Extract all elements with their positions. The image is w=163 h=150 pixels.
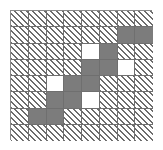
- grid-cell-hatch: [29, 60, 47, 76]
- grid-cell-hatch: [11, 125, 29, 141]
- grid-cell-gray: [47, 109, 65, 125]
- grid-cell-white: [82, 92, 100, 108]
- grid-cell-hatch: [118, 109, 136, 125]
- grid-cell-hatch: [64, 44, 82, 60]
- figure-container: [0, 0, 163, 150]
- grid-cell-hatch: [118, 11, 136, 27]
- grid: [10, 10, 152, 140]
- grid-cell-hatch: [47, 44, 65, 60]
- grid-cell-hatch: [29, 92, 47, 108]
- grid-cell-gray: [82, 60, 100, 76]
- grid-cell-hatch: [135, 109, 153, 125]
- grid-cell-hatch: [100, 125, 118, 141]
- grid-cell-hatch: [100, 11, 118, 27]
- grid-cell-hatch: [11, 76, 29, 92]
- grid-cell-hatch: [11, 92, 29, 108]
- grid-cell-hatch: [11, 60, 29, 76]
- grid-cell-hatch: [100, 109, 118, 125]
- grid-cell-hatch: [64, 11, 82, 27]
- grid-cell-hatch: [47, 60, 65, 76]
- grid-cell-hatch: [64, 109, 82, 125]
- grid-cell-hatch: [82, 125, 100, 141]
- grid-cell-hatch: [82, 109, 100, 125]
- grid-cell-hatch: [135, 44, 153, 60]
- grid-cell-gray: [29, 109, 47, 125]
- grid-cell-hatch: [135, 11, 153, 27]
- grid-cell-hatch: [11, 109, 29, 125]
- grid-cell-hatch: [11, 27, 29, 43]
- grid-cell-gray: [82, 76, 100, 92]
- grid-cell-hatch: [118, 44, 136, 60]
- grid-cell-gray: [118, 27, 136, 43]
- grid-cell-hatch: [47, 11, 65, 27]
- grid-cell-hatch: [82, 11, 100, 27]
- grid-cell-hatch: [11, 11, 29, 27]
- grid-cell-hatch: [29, 27, 47, 43]
- grid-cell-hatch: [135, 92, 153, 108]
- grid-cell-hatch: [135, 60, 153, 76]
- grid-cell-hatch: [64, 27, 82, 43]
- grid-cell-hatch: [11, 44, 29, 60]
- grid-cell-gray: [100, 60, 118, 76]
- grid-cell-hatch: [29, 44, 47, 60]
- grid-cell-hatch: [29, 76, 47, 92]
- grid-cell-hatch: [64, 60, 82, 76]
- grid-cell-hatch: [47, 27, 65, 43]
- grid-cell-hatch: [29, 125, 47, 141]
- grid-cell-gray: [64, 76, 82, 92]
- grid-cell-hatch: [135, 125, 153, 141]
- grid-cell-hatch: [82, 27, 100, 43]
- grid-cell-gray: [135, 27, 153, 43]
- grid-cell-white: [118, 60, 136, 76]
- grid-cell-hatch: [118, 76, 136, 92]
- grid-cell-hatch: [118, 92, 136, 108]
- grid-cell-white: [47, 76, 65, 92]
- grid-cell-hatch: [100, 76, 118, 92]
- grid-cell-hatch: [118, 125, 136, 141]
- grid-cell-hatch: [47, 125, 65, 141]
- grid-cell-gray: [100, 44, 118, 60]
- grid-cell-white: [82, 44, 100, 60]
- grid-cell-gray: [47, 92, 65, 108]
- grid-cell-hatch: [100, 27, 118, 43]
- grid-cell-hatch: [64, 125, 82, 141]
- grid-cell-hatch: [29, 11, 47, 27]
- grid-cell-hatch: [100, 92, 118, 108]
- grid-cell-gray: [64, 92, 82, 108]
- grid-cell-hatch: [135, 76, 153, 92]
